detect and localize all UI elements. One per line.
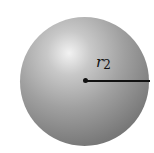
radius-label: r2 bbox=[96, 55, 111, 70]
center-point bbox=[83, 78, 88, 83]
radius-line bbox=[86, 80, 150, 82]
radius-subscript: 2 bbox=[103, 58, 111, 72]
